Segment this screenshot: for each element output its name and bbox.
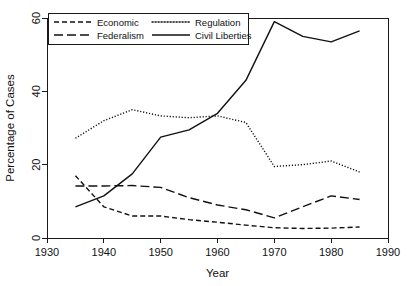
y-axis-title: Percentage of Cases [4,74,16,182]
chart-legend: EconomicRegulationFederalismCivil Libert… [48,13,252,44]
line-chart: 1930194019501960197019801990 0204060 Yea… [0,0,407,286]
x-tick-label: 1980 [319,246,343,258]
series-line-federalism [75,186,359,218]
data-series-group [75,22,359,229]
series-line-regulation [75,110,359,172]
x-tick-label: 1930 [35,246,59,258]
x-axis-ticks: 1930194019501960197019801990 [35,238,400,258]
legend-label-regulation: Regulation [195,17,240,28]
legend-label-civil-liberties: Civil Liberties [195,30,252,41]
x-tick-label: 1970 [262,246,286,258]
chart-figure: 1930194019501960197019801990 0204060 Yea… [0,0,407,286]
x-tick-label: 1960 [205,246,229,258]
legend-label-federalism: Federalism [97,30,144,41]
series-line-civil-liberties [75,22,359,207]
x-tick-label: 1990 [376,246,400,258]
y-tick-label: 20 [30,159,42,171]
y-tick-label: 0 [30,235,42,241]
legend-label-economic: Economic [97,17,139,28]
x-tick-label: 1950 [148,246,172,258]
y-axis-ticks: 0204060 [30,12,47,241]
y-tick-label: 40 [30,85,42,97]
x-tick-label: 1940 [92,246,116,258]
x-axis-title: Year [206,267,229,279]
y-tick-label: 60 [30,12,42,24]
